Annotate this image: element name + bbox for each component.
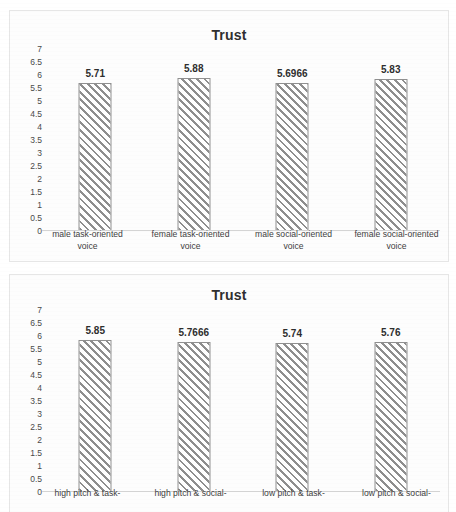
bar-value-label: 5.71 [86, 69, 105, 79]
bar [374, 342, 407, 492]
bar-slot: 5.7666 [145, 310, 244, 492]
y-tick-label: 3.5 [30, 136, 42, 145]
y-tick-label: 4 [37, 384, 42, 393]
y-tick-label: 6 [37, 71, 42, 80]
y-tick-label: 6.5 [30, 319, 42, 328]
y-tick-label: 4 [37, 123, 42, 132]
bar-value-label: 5.76 [381, 328, 400, 338]
y-tick-label: 7 [37, 45, 42, 54]
y-tick-label: 1 [37, 462, 42, 471]
bar [276, 343, 309, 492]
y-tick-label: 1 [37, 201, 42, 210]
x-axis-category-label: high pitch & task- [36, 487, 139, 499]
x-label-line-1: low pitch & social- [362, 488, 431, 498]
x-axis-category-label: male task-orientedvoice [36, 228, 139, 252]
y-tick-label: 4.5 [30, 110, 42, 119]
x-label-line-2: voice [346, 240, 447, 252]
x-label-line-1: low pitch & task- [262, 488, 325, 498]
x-label-line-2: voice [243, 240, 344, 252]
y-tick-label: 3.5 [30, 397, 42, 406]
x-label-line-1: female social-oriented [354, 229, 438, 239]
bar [177, 342, 210, 492]
x-axis-category-label: male social-orientedvoice [242, 228, 345, 252]
y-tick-label: 4.5 [30, 371, 42, 380]
bar-slot: 5.85 [46, 310, 145, 492]
y-tick-label: 2.5 [30, 162, 42, 171]
x-axis-category-label: low pitch & social- [345, 487, 448, 499]
chart-title-bottom: Trust [10, 287, 448, 303]
y-tick-label: 7 [37, 306, 42, 315]
bar-slot: 5.6966 [243, 49, 342, 231]
y-tick-label: 6.5 [30, 58, 42, 67]
y-tick-label: 2 [37, 175, 42, 184]
y-axis-top: 76.565.554.543.532.521.510.50 [12, 49, 42, 231]
y-tick-label: 2.5 [30, 423, 42, 432]
x-axis-category-label: female social-orientedvoice [345, 228, 448, 252]
y-tick-label: 5 [37, 358, 42, 367]
y-tick-label: 6 [37, 332, 42, 341]
chart-title-top: Trust [10, 27, 448, 43]
bar-value-label: 5.88 [184, 64, 203, 74]
bar-value-label: 5.74 [283, 329, 302, 339]
bar-slot: 5.71 [46, 49, 145, 231]
x-axis-labels-top: male task-orientedvoicefemale task-orien… [36, 228, 448, 252]
x-label-line-1: female task-oriented [152, 229, 230, 239]
bar-series-bottom: 5.855.76665.745.76 [46, 310, 440, 492]
bar-series-top: 5.715.885.69665.83 [46, 49, 440, 231]
x-label-line-2: voice [140, 240, 241, 252]
plot-area-top: 76.565.554.543.532.521.510.50 5.715.885.… [46, 49, 440, 231]
bar-value-label: 5.7666 [178, 328, 209, 338]
bar-value-label: 5.6966 [277, 69, 308, 79]
bar [79, 83, 112, 231]
y-tick-label: 3 [37, 149, 42, 158]
y-tick-label: 5 [37, 97, 42, 106]
x-axis-category-label: low pitch & task- [242, 487, 345, 499]
x-axis-category-label: high pitch & social- [139, 487, 242, 499]
y-tick-label: 5.5 [30, 84, 42, 93]
x-axis-category-label: female task-orientedvoice [139, 228, 242, 252]
x-axis-labels-bottom: high pitch & task-high pitch & social-lo… [36, 487, 448, 499]
plot-area-bottom: 76.565.554.543.532.521.510.50 5.855.7666… [46, 310, 440, 492]
chart-panel-top: Trust 76.565.554.543.532.521.510.50 5.71… [9, 10, 449, 262]
y-tick-label: 5.5 [30, 345, 42, 354]
x-label-line-1: male task-oriented [52, 229, 123, 239]
y-axis-bottom: 76.565.554.543.532.521.510.50 [12, 310, 42, 492]
chart-panel-bottom: Trust 76.565.554.543.532.521.510.50 5.85… [9, 274, 449, 512]
bar [276, 83, 309, 231]
y-tick-label: 1.5 [30, 188, 42, 197]
bar [79, 340, 112, 492]
x-label-line-2: voice [37, 240, 138, 252]
bar-value-label: 5.83 [381, 65, 400, 75]
bar-slot: 5.88 [145, 49, 244, 231]
y-tick-label: 3 [37, 410, 42, 419]
y-tick-label: 0.5 [30, 475, 42, 484]
x-label-line-1: male social-oriented [255, 229, 332, 239]
bar-slot: 5.76 [342, 310, 441, 492]
y-tick-label: 1.5 [30, 449, 42, 458]
bar-value-label: 5.85 [86, 326, 105, 336]
bar [177, 78, 210, 231]
bar-slot: 5.74 [243, 310, 342, 492]
bar-slot: 5.83 [342, 49, 441, 231]
bar [374, 79, 407, 231]
y-tick-label: 0.5 [30, 214, 42, 223]
y-tick-label: 2 [37, 436, 42, 445]
x-label-line-1: high pitch & task- [55, 488, 121, 498]
x-label-line-1: high pitch & social- [154, 488, 226, 498]
